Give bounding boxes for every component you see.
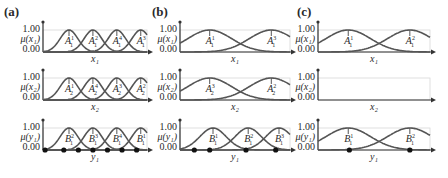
y-axis-label: μ(y₁) — [0, 131, 40, 142]
x-axis-label: x₁ — [364, 53, 384, 64]
y-axis-label: μ(y₁) — [137, 131, 177, 142]
arrow-right-icon — [431, 148, 436, 153]
panel-label: (b) — [152, 4, 168, 20]
y-tick-bottom: 0.00 — [6, 141, 40, 152]
x-axis-label: x₁ — [85, 53, 105, 64]
y-axis-label: μ(x₂) — [137, 81, 177, 92]
membership-set-label: B41 — [106, 133, 128, 146]
membership-set-label: A11 — [337, 35, 359, 48]
x-axis-label: x₁ — [225, 53, 245, 64]
data-point-dot — [407, 147, 412, 152]
arrow-right-icon — [431, 98, 436, 103]
data-point-dot — [207, 147, 212, 152]
y-axis-label: μ(x₂) — [275, 81, 315, 92]
data-point-dot — [76, 147, 81, 152]
x-axis-label: x₂ — [85, 101, 105, 112]
x-axis-label: y₁ — [225, 151, 245, 162]
x-axis-label: x₂ — [225, 101, 245, 112]
data-point-dot — [61, 147, 66, 152]
y-tick-bottom: 0.00 — [143, 91, 177, 102]
data-point-dot — [192, 147, 197, 152]
panel-label: (c) — [297, 4, 311, 20]
panel-label: (a) — [4, 4, 19, 20]
membership-set-label: A41 — [106, 35, 128, 48]
y-tick-bottom: 0.00 — [6, 91, 40, 102]
membership-set-label: A21 — [399, 35, 421, 48]
membership-set-label: A42 — [82, 83, 104, 96]
arrow-right-icon — [431, 50, 436, 55]
x-axis-label: x₂ — [364, 101, 384, 112]
membership-set-label: A11 — [199, 35, 221, 48]
y-tick-bottom: 0.00 — [6, 43, 40, 54]
x-axis-label: y₁ — [364, 151, 384, 162]
y-tick-bottom: 0.00 — [281, 43, 315, 54]
y-axis-label: μ(x₁) — [137, 33, 177, 44]
y-axis-label: μ(x₁) — [0, 33, 40, 44]
membership-set-label: B31 — [82, 133, 104, 146]
membership-set-label: A21 — [82, 35, 104, 48]
data-point-dot — [134, 147, 139, 152]
membership-set-label: B21 — [58, 133, 80, 146]
y-axis-label: μ(x₂) — [0, 81, 40, 92]
membership-set-label: A32 — [106, 83, 128, 96]
membership-set-label: A32 — [199, 83, 221, 96]
data-point-dot — [273, 147, 278, 152]
data-point-dot — [347, 147, 352, 152]
membership-set-label: A12 — [58, 83, 80, 96]
membership-set-label: B11 — [202, 133, 224, 146]
data-point-dot — [105, 147, 110, 152]
data-point-dot — [42, 147, 47, 152]
membership-set-label: A11 — [58, 35, 80, 48]
x-axis-label: y₁ — [85, 151, 105, 162]
y-axis-label: μ(x₁) — [275, 33, 315, 44]
membership-set-label: B21 — [237, 133, 259, 146]
y-tick-bottom: 0.00 — [281, 141, 315, 152]
data-point-dot — [119, 147, 124, 152]
membership-set-label: B21 — [399, 133, 421, 146]
y-tick-bottom: 0.00 — [281, 91, 315, 102]
y-tick-bottom: 0.00 — [143, 43, 177, 54]
y-axis-label: μ(y₁) — [275, 131, 315, 142]
membership-set-label: B11 — [337, 133, 359, 146]
y-tick-bottom: 0.00 — [143, 141, 177, 152]
